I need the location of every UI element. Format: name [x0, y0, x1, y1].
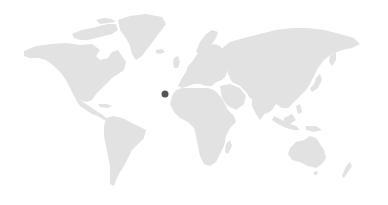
philippines [296, 104, 302, 114]
world-map [0, 0, 388, 205]
australia [288, 136, 326, 168]
madagascar [225, 140, 232, 154]
new-guinea [306, 126, 322, 132]
canadian-arctic-2 [96, 18, 116, 24]
north-america [24, 43, 126, 102]
south-america [104, 116, 146, 186]
world-map-svg [0, 0, 388, 205]
borneo [284, 114, 296, 124]
location-marker[interactable] [162, 91, 169, 98]
new-zealand [342, 162, 352, 178]
iceland [156, 49, 165, 54]
caribbean [98, 104, 112, 108]
uk [173, 56, 180, 68]
canadian-arctic [72, 24, 118, 40]
tasmania [314, 171, 318, 175]
